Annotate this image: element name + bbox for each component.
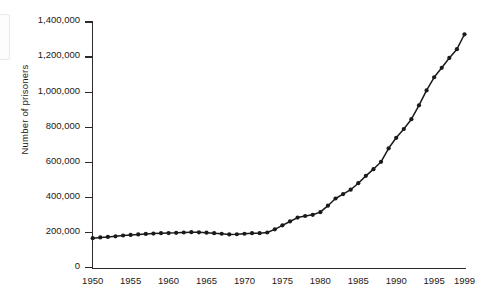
data-point <box>356 181 360 185</box>
data-point <box>197 230 201 234</box>
data-point <box>417 103 421 107</box>
data-point <box>235 232 239 236</box>
data-point <box>409 117 413 121</box>
data-point <box>144 232 148 236</box>
data-point <box>258 231 262 235</box>
data-point <box>159 231 163 235</box>
data-point <box>424 88 428 92</box>
data-point <box>265 230 269 234</box>
data-point <box>166 231 170 235</box>
data-point <box>273 227 277 231</box>
data-point <box>364 174 368 178</box>
data-point <box>212 231 216 235</box>
data-point <box>341 192 345 196</box>
data-point <box>91 236 95 240</box>
data-point <box>250 231 254 235</box>
data-point <box>326 204 330 208</box>
data-point <box>220 232 224 236</box>
data-point <box>318 210 322 214</box>
data-point <box>349 188 353 192</box>
data-point <box>371 167 375 171</box>
data-point <box>333 196 337 200</box>
data-point <box>174 231 178 235</box>
data-point <box>129 233 133 237</box>
data-point <box>440 66 444 70</box>
data-point <box>432 75 436 79</box>
data-point <box>136 232 140 236</box>
data-point <box>447 56 451 60</box>
data-point <box>182 230 186 234</box>
data-point <box>295 216 299 220</box>
data-point <box>462 32 466 36</box>
data-point <box>189 230 193 234</box>
series-line-number-of-prisoners <box>0 0 493 308</box>
data-point <box>455 47 459 51</box>
data-point <box>288 219 292 223</box>
data-point <box>106 235 110 239</box>
data-point <box>151 231 155 235</box>
data-point <box>303 214 307 218</box>
data-point <box>311 213 315 217</box>
chart-figure: Number of prisoners 0200,000400,000600,0… <box>0 0 493 308</box>
data-point <box>402 127 406 131</box>
data-point <box>242 232 246 236</box>
data-point <box>121 233 125 237</box>
data-point <box>280 223 284 227</box>
data-point <box>98 235 102 239</box>
data-point <box>379 160 383 164</box>
data-point <box>204 231 208 235</box>
data-point <box>227 232 231 236</box>
data-point <box>394 136 398 140</box>
data-point <box>387 146 391 150</box>
data-point <box>113 234 117 238</box>
